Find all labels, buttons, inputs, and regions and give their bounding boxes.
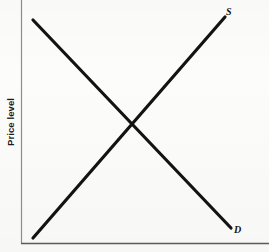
- y-axis-label: Price level: [5, 98, 16, 146]
- demand-curve-label: D: [234, 224, 241, 235]
- supply-demand-figure: Price level S D: [0, 0, 269, 252]
- supply-curve-label: S: [226, 6, 232, 17]
- plot-area: [0, 0, 269, 252]
